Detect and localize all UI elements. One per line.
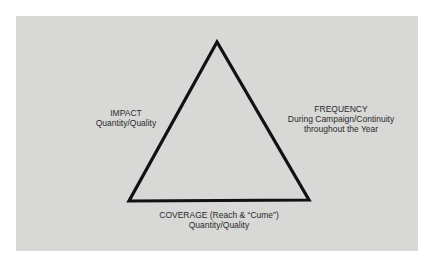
impact-subtitle: Quantity/Quality [84,118,168,128]
frequency-title: FREQUENCY [268,104,414,114]
frequency-line2: During Campaign/Continuity [268,114,414,124]
diagram-canvas: IMPACT Quantity/Quality FREQUENCY During… [0,0,434,267]
impact-title: IMPACT [84,108,168,118]
coverage-label: COVERAGE (Reach & “Cume”) Quantity/Quali… [130,210,308,230]
impact-label: IMPACT Quantity/Quality [84,108,168,128]
coverage-subtitle: Quantity/Quality [130,220,308,230]
frequency-label: FREQUENCY During Campaign/Continuity thr… [268,104,414,134]
coverage-title: COVERAGE (Reach & “Cume”) [130,210,308,220]
frequency-line3: throughout the Year [268,124,414,134]
